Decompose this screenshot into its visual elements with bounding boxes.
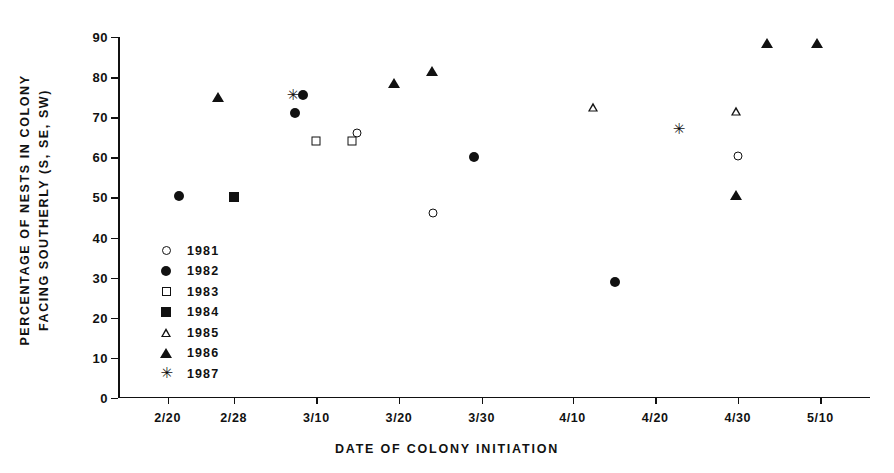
legend-label: 1985 <box>187 326 219 340</box>
x-tick-mark <box>482 397 483 404</box>
x-tick-mark <box>234 397 235 404</box>
data-point-1982 <box>610 277 620 287</box>
legend-item-1987: ✳1987 <box>155 366 219 381</box>
marker-circle-open <box>162 246 171 255</box>
y-tick-label: 90 <box>93 30 108 45</box>
data-point-1985 <box>731 107 741 116</box>
marker-circle-filled <box>469 152 479 162</box>
marker-circle-filled <box>610 277 620 287</box>
data-point-1982 <box>290 108 300 118</box>
legend-label: 1984 <box>187 305 219 319</box>
x-tick-label-3-20: 3/20 <box>386 411 413 425</box>
data-point-1984 <box>229 192 239 202</box>
marker-circle-open <box>428 209 437 218</box>
data-point-1985 <box>588 103 598 112</box>
scatter-plot-figure: PERCENTAGE OF NESTS IN COLONY FACING SOU… <box>0 0 894 473</box>
legend-item-1984: 1984 <box>155 305 219 320</box>
x-tick-label-3-30: 3/30 <box>468 411 495 425</box>
y-tick-label: 30 <box>93 270 108 285</box>
y-tick-mark <box>111 358 118 359</box>
legend-label: 1986 <box>187 346 219 360</box>
marker-circle-filled <box>174 191 184 201</box>
data-point-1982 <box>174 191 184 201</box>
marker-triangle-filled <box>160 348 172 358</box>
legend-item-1981: 1981 <box>155 243 219 258</box>
y-tick-mark <box>111 278 118 279</box>
marker-asterisk: ✳ <box>287 90 298 101</box>
legend-marker-circle-filled <box>155 266 177 276</box>
x-tick-label-4-20: 4/20 <box>642 411 669 425</box>
y-axis-label-line-2: FACING SOUTHERLY (S, SE, SW) <box>35 89 54 331</box>
x-tick-mark <box>399 397 400 404</box>
marker-triangle-filled <box>811 38 823 48</box>
y-tick-mark <box>111 197 118 198</box>
y-tick-label: 20 <box>93 310 108 325</box>
marker-circle-filled <box>298 90 308 100</box>
data-point-1981 <box>352 129 361 138</box>
marker-square-open <box>162 287 171 296</box>
x-tick-label-4-10: 4/10 <box>559 411 586 425</box>
marker-circle-open <box>733 152 742 161</box>
data-point-1982 <box>298 90 308 100</box>
y-tick-label: 40 <box>93 230 108 245</box>
legend-label: 1983 <box>187 285 219 299</box>
x-tick-label-2-20: 2/20 <box>154 411 181 425</box>
legend-item-1985: 1985 <box>155 325 219 340</box>
data-point-1986 <box>388 78 400 88</box>
x-tick-mark <box>820 397 821 404</box>
legend-label: 1987 <box>187 367 219 381</box>
x-tick-label-5-10: 5/10 <box>807 411 834 425</box>
x-tick-mark <box>316 397 317 404</box>
y-tick-mark <box>111 77 118 78</box>
data-point-1986 <box>811 38 823 48</box>
data-point-1983 <box>347 137 356 146</box>
y-tick-mark <box>111 238 118 239</box>
marker-triangle-filled <box>426 66 438 76</box>
marker-square-filled <box>161 307 171 317</box>
y-tick-label: 60 <box>93 150 108 165</box>
legend: 198119821983198419851986✳1987 <box>155 243 219 381</box>
data-point-1986 <box>761 38 773 48</box>
data-point-1986 <box>730 190 742 200</box>
data-point-1983 <box>312 137 321 146</box>
y-axis-line <box>118 37 120 398</box>
data-point-1987: ✳ <box>673 124 684 135</box>
y-tick-mark <box>111 37 118 38</box>
marker-circle-filled <box>290 108 300 118</box>
data-point-1986 <box>212 92 224 102</box>
marker-triangle-filled <box>388 78 400 88</box>
legend-marker-square-filled <box>155 307 177 317</box>
x-tick-mark <box>655 397 656 404</box>
legend-marker-triangle-filled <box>155 348 177 358</box>
marker-triangle-filled <box>730 190 742 200</box>
y-tick-label: 10 <box>93 350 108 365</box>
data-point-1987: ✳ <box>287 90 298 101</box>
data-point-1981 <box>733 152 742 161</box>
marker-triangle-filled <box>212 92 224 102</box>
y-tick-label: 80 <box>93 70 108 85</box>
legend-marker-asterisk: ✳ <box>155 368 177 379</box>
x-tick-label-4-30: 4/30 <box>724 411 751 425</box>
y-axis-label: PERCENTAGE OF NESTS IN COLONY FACING SOU… <box>6 0 64 420</box>
marker-triangle-filled <box>761 38 773 48</box>
data-point-1982 <box>469 152 479 162</box>
x-axis-label: DATE OF COLONY INITIATION <box>0 442 894 456</box>
x-tick-mark <box>738 397 739 404</box>
legend-item-1982: 1982 <box>155 264 219 279</box>
legend-item-1986: 1986 <box>155 346 219 361</box>
legend-marker-triangle-open <box>155 328 177 337</box>
marker-triangle-open <box>588 103 598 112</box>
x-tick-mark <box>168 397 169 404</box>
y-tick-label: 0 <box>100 391 108 406</box>
y-tick-mark <box>111 117 118 118</box>
marker-triangle-open <box>731 107 741 116</box>
plot-area: 0102030405060708090 2/202/283/103/203/30… <box>118 37 870 398</box>
y-axis-label-line-1: PERCENTAGE OF NESTS IN COLONY <box>16 74 35 345</box>
y-tick-mark <box>111 318 118 319</box>
x-tick-label-3-10: 3/10 <box>303 411 330 425</box>
y-tick-mark <box>111 398 118 399</box>
legend-label: 1982 <box>187 264 219 278</box>
marker-square-filled <box>229 192 239 202</box>
marker-circle-open <box>352 129 361 138</box>
x-tick-mark <box>573 397 574 404</box>
